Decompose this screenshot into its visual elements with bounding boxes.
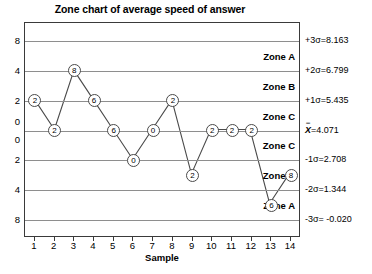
- zone-band-label: Zone C: [263, 110, 295, 121]
- x-axis-tick-label: 8: [162, 240, 182, 251]
- y-axis-tick-label: 8: [0, 214, 20, 225]
- x-axis-tick-label: 5: [103, 240, 123, 251]
- xaxis-label: Sample: [24, 252, 300, 263]
- data-point-marker: 2: [48, 124, 61, 137]
- sigma-gridline: [25, 101, 299, 102]
- data-point-marker: 2: [206, 124, 219, 137]
- sigma-annotation: X=4.071: [305, 125, 339, 135]
- x-axis-tick-label: 9: [182, 240, 202, 251]
- sigma-annotation: -2σ=1.344: [305, 184, 346, 194]
- y-axis-tick-label: 4: [0, 184, 20, 195]
- x-axis-tick-label: 11: [221, 240, 241, 251]
- data-point-marker: 8: [285, 169, 298, 182]
- sigma-annotation: -3σ= -0.020: [305, 214, 352, 224]
- data-point-marker: 2: [186, 169, 199, 182]
- data-point-marker: 2: [226, 124, 239, 137]
- sigma-gridline: [25, 190, 299, 191]
- x-axis-tick-label: 12: [241, 240, 261, 251]
- y-axis-tick-label: 4: [0, 64, 20, 75]
- plot-area: Zone AZone BZone CZone CZone BZone A2286…: [24, 22, 300, 237]
- zone-band-label: Zone B: [263, 80, 295, 91]
- x-axis-tick-label: 10: [201, 240, 221, 251]
- x-axis-tick-label: 2: [44, 240, 64, 251]
- data-point-marker: 6: [265, 199, 278, 212]
- y-axis-tick-label: 0: [0, 115, 20, 126]
- data-point-marker: 0: [147, 124, 160, 137]
- x-axis-tick-label: 4: [83, 240, 103, 251]
- y-axis-tick-label: 0: [0, 133, 20, 144]
- x-axis-tick-label: 6: [122, 240, 142, 251]
- data-point-marker: 6: [88, 94, 101, 107]
- sigma-gridline: [25, 41, 299, 42]
- x-axis-tick-label: 14: [280, 240, 300, 251]
- x-axis-tick-label: 7: [142, 240, 162, 251]
- sigma-annotation: +3σ=8.163: [305, 35, 349, 45]
- y-axis-tick-label: 8: [0, 34, 20, 45]
- zone-band-label: Zone C: [263, 140, 295, 151]
- x-axis-tick-label: 13: [260, 240, 280, 251]
- y-axis-tick-label: 2: [0, 94, 20, 105]
- page-title: Zone chart of average speed of answer: [0, 3, 300, 15]
- sigma-gridline: [25, 71, 299, 72]
- sigma-annotation: +1σ=5.435: [305, 95, 349, 105]
- x-axis-tick-label: 3: [63, 240, 83, 251]
- data-point-marker: 0: [127, 154, 140, 167]
- sigma-annotation: -1σ=2.708: [305, 154, 346, 164]
- sigma-gridline: [25, 160, 299, 161]
- sigma-gridline: [25, 220, 299, 221]
- x-axis-tick-label: 1: [24, 240, 44, 251]
- y-axis-tick-label: 2: [0, 154, 20, 165]
- sigma-annotation: +2σ=6.799: [305, 65, 349, 75]
- zone-band-label: Zone A: [263, 50, 295, 61]
